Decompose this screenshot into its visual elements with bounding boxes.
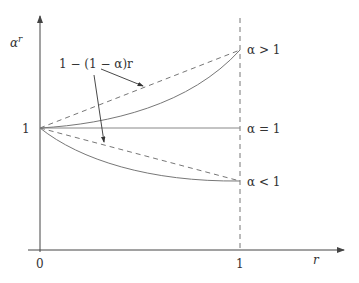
annotation-label: 1 − (1 − α)r xyxy=(59,57,133,71)
x-axis-label: r xyxy=(313,253,320,267)
annotation-arrow-lower xyxy=(94,75,104,142)
annotation-arrow-upper xyxy=(101,69,143,86)
label-alpha-less-1: α < 1 xyxy=(247,175,280,189)
linear-alpha-less-1 xyxy=(40,128,240,181)
label-alpha-equal-1: α = 1 xyxy=(247,122,280,136)
y-tick-1: 1 xyxy=(22,122,30,136)
x-tick-0: 0 xyxy=(36,257,44,271)
x-tick-1: 1 xyxy=(236,257,244,271)
alpha-power-diagram: αr 1 0 1 r 1 − (1 − α)r α > 1 α = 1 α < … xyxy=(0,0,359,283)
y-axis-label: αr xyxy=(10,34,23,50)
label-alpha-greater-1: α > 1 xyxy=(247,43,280,57)
